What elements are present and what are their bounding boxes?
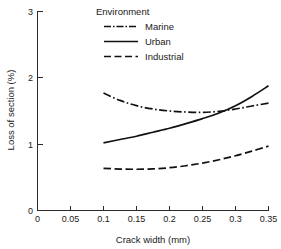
x-tick-label-0.15: 0.15: [128, 214, 146, 224]
legend-item-urban[interactable]: Urban: [104, 36, 171, 47]
x-tick-label-0.1: 0.1: [97, 214, 110, 224]
x-tick-label-0.25: 0.25: [194, 214, 212, 224]
legend-label-industrial: Industrial: [145, 51, 184, 62]
legend-title: Environment: [96, 6, 150, 17]
y-tick-label-3: 3: [28, 7, 33, 17]
y-tick-label-2: 2: [28, 73, 33, 83]
y-axis-title: Loss of section (%): [5, 70, 16, 151]
x-tick-label-0: 0: [35, 214, 40, 224]
y-tick-label-1: 1: [28, 140, 33, 150]
x-axis-title: Crack width (mm): [116, 234, 190, 245]
series-line-industrial: [104, 146, 269, 169]
x-tick-label-0.05: 0.05: [62, 214, 80, 224]
x-axis-tick-labels: 0 0.05 0.1 0.15 0.2 0.25 0.3 0.35: [35, 214, 277, 224]
y-axis-ticks: [38, 12, 43, 145]
legend-label-urban: Urban: [145, 36, 171, 47]
legend-label-marine: Marine: [145, 21, 174, 32]
series-line-urban: [104, 86, 269, 143]
x-axis-ticks: [71, 206, 269, 211]
line-chart: 3 2 1 0 0 0.05 0.1 0.15 0.2 0.25 0.3 0.3…: [0, 0, 281, 249]
legend-item-industrial[interactable]: Industrial: [104, 51, 184, 62]
series-line-marine: [104, 93, 269, 112]
chart-figure: 3 2 1 0 0 0.05 0.1 0.15 0.2 0.25 0.3 0.3…: [0, 0, 281, 249]
x-tick-label-0.35: 0.35: [260, 214, 278, 224]
legend: Environment Marine Urban Industrial: [96, 6, 184, 62]
x-tick-label-0.3: 0.3: [229, 214, 242, 224]
x-tick-label-0.2: 0.2: [163, 214, 176, 224]
y-tick-label-0: 0: [28, 206, 33, 216]
y-axis-tick-labels: 3 2 1 0: [28, 7, 33, 216]
data-curves: [104, 86, 269, 169]
legend-item-marine[interactable]: Marine: [104, 21, 174, 32]
